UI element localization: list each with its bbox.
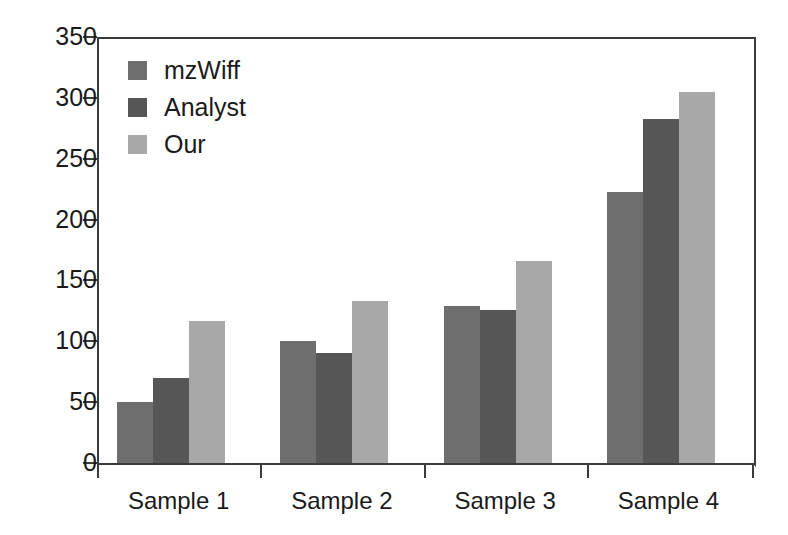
bar-analyst-sample-2: [316, 353, 352, 463]
bar-our-sample-2: [352, 301, 388, 463]
legend-swatch-icon: [128, 61, 147, 80]
x-axis-category-label: Sample 2: [260, 487, 423, 515]
y-axis-tick-label: 350: [23, 24, 97, 49]
chart-legend: mzWiffAnalystOur: [128, 52, 348, 163]
x-axis-tick: [97, 465, 99, 478]
legend-swatch-icon: [128, 135, 147, 154]
legend-label: Analyst: [164, 95, 246, 120]
legend-swatch-icon: [128, 98, 147, 117]
bar-our-sample-4: [679, 92, 715, 463]
bar-analyst-sample-4: [643, 119, 679, 463]
x-axis-tick: [587, 465, 589, 478]
bar-mzwiff-sample-4: [607, 192, 643, 463]
legend-item-our: Our: [128, 126, 348, 163]
x-axis-category-label: Sample 1: [97, 487, 260, 515]
legend-label: mzWiff: [164, 58, 240, 83]
x-axis-tick: [752, 465, 754, 478]
y-axis: 050100150200250300350: [0, 0, 97, 535]
x-axis-category-label: Sample 4: [587, 487, 750, 515]
y-axis-tick-label: 150: [23, 267, 97, 292]
y-axis-tick-label: 250: [23, 146, 97, 171]
bar-our-sample-3: [516, 261, 552, 463]
bar-analyst-sample-1: [153, 378, 189, 463]
x-axis-line: [97, 463, 754, 465]
y-axis-tick-label: 200: [23, 207, 97, 232]
bar-mzwiff-sample-3: [444, 306, 480, 463]
bar-analyst-sample-3: [480, 310, 516, 463]
legend-item-mzwiff: mzWiff: [128, 52, 348, 89]
x-axis-tick: [424, 465, 426, 478]
y-axis-tick-label: 50: [23, 389, 97, 414]
x-axis-category-label: Sample 3: [424, 487, 587, 515]
bar-our-sample-1: [189, 321, 225, 463]
x-axis-tick: [260, 465, 262, 478]
legend-item-analyst: Analyst: [128, 89, 348, 126]
bar-chart-figure: 050100150200250300350 mzWiffAnalystOur S…: [0, 0, 788, 535]
y-axis-tick-label: 100: [23, 328, 97, 353]
legend-label: Our: [164, 132, 206, 157]
y-axis-tick-label: 300: [23, 85, 97, 110]
bar-mzwiff-sample-1: [117, 402, 153, 463]
bar-mzwiff-sample-2: [280, 341, 316, 463]
y-axis-tick-label: 0: [23, 450, 97, 475]
